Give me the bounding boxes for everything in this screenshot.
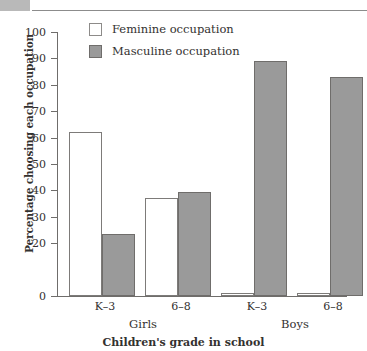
legend-item-feminine: Feminine occupation: [89, 18, 289, 40]
x-group-label-boys: Boys: [250, 317, 340, 331]
x-tick-label-boys-k3: K–3: [227, 300, 287, 313]
bar-girls-k3-feminine: [69, 132, 102, 296]
x-axis-line: [57, 296, 347, 297]
y-tick-label-50: 50: [6, 164, 46, 165]
y-tick-label-20: 20: [6, 243, 46, 244]
legend-label-masculine: Masculine occupation: [112, 44, 240, 58]
plot-area: [57, 32, 347, 296]
bar-girls-68-masculine: [178, 192, 211, 296]
y-tick-0: [51, 296, 58, 297]
page-header-rule: [32, 10, 367, 11]
y-tick-label-80: 80: [6, 85, 46, 86]
legend-item-masculine: Masculine occupation: [89, 40, 289, 62]
legend-swatch-masculine-icon: [89, 45, 102, 58]
x-tick-label-girls-k3: K–3: [75, 300, 135, 313]
x-group-label-girls: Girls: [98, 317, 188, 331]
y-tick-label-40: 40: [6, 190, 46, 191]
bar-boys-68-feminine: [297, 293, 330, 296]
y-tick-label-30: 30: [6, 217, 46, 218]
bar-boys-68-masculine: [330, 77, 363, 296]
legend-swatch-feminine-icon: [89, 23, 102, 36]
y-tick-label-60: 60: [6, 138, 46, 139]
y-tick-label-70: 70: [6, 111, 46, 112]
x-tick-label-girls-68: 6–8: [151, 300, 211, 313]
page-corner-block: [0, 0, 30, 11]
x-tick-label-boys-68: 6–8: [303, 300, 363, 313]
chart-legend: Feminine occupation Masculine occupation: [89, 18, 289, 62]
y-tick-label-90: 90: [6, 58, 46, 59]
bar-boys-k3-feminine: [221, 293, 254, 296]
y-tick-label-0: 0: [6, 296, 46, 297]
x-axis-title: Children's grade in school: [0, 336, 367, 349]
bar-girls-k3-masculine: [102, 234, 135, 296]
legend-label-feminine: Feminine occupation: [112, 22, 234, 36]
bar-boys-k3-masculine: [254, 61, 287, 296]
y-tick-label-100: 100: [6, 32, 46, 33]
bar-girls-68-feminine: [145, 198, 178, 296]
bar-chart-figure: Percentage choosing each occupation 100 …: [0, 14, 367, 351]
